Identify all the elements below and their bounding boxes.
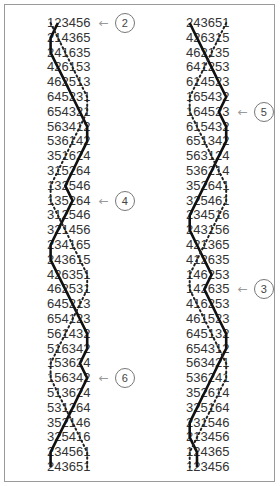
callout-number: 4 (115, 191, 135, 211)
dotted-bell-line (190, 23, 227, 467)
bold-bell-line (190, 23, 227, 467)
bold-bell-line (51, 23, 88, 467)
blue-lines (0, 0, 280, 486)
left-arrow-icon: ← (99, 16, 109, 30)
callout-number: 2 (115, 13, 135, 33)
callout-number: 5 (254, 102, 274, 122)
callout-number: 6 (115, 368, 135, 388)
left-arrow-icon: ← (99, 371, 109, 385)
left-arrow-icon: ← (238, 105, 248, 119)
left-arrow-icon: ← (238, 282, 248, 296)
left-arrow-icon: ← (99, 194, 109, 208)
